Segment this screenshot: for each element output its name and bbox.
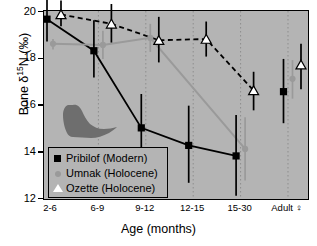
data-point-square (185, 142, 192, 149)
y-axis-tick (38, 58, 43, 60)
x-axis-tick-label: 6-9 (71, 203, 123, 213)
fur-seal-icon (56, 99, 118, 139)
y-axis-tick (38, 104, 43, 106)
data-point-circle (50, 41, 56, 47)
data-point-square (90, 47, 97, 54)
plot-area: Pribilof (Modern) Umnak (Holocene) Ozett… (43, 10, 309, 200)
x-axis-tick-label: Adult ♀ (261, 203, 313, 213)
x-axis-tick-label: 2-6 (24, 203, 76, 213)
data-point-triangle (106, 19, 116, 28)
data-point-square (138, 124, 145, 131)
data-point-triangle (296, 60, 306, 69)
y-axis-tick-label: 20 (12, 6, 36, 17)
x-axis-tick-label: 9-12 (119, 203, 171, 213)
legend-label-pribilof: Pribilof (Modern) (66, 152, 147, 164)
data-point-circle (100, 42, 106, 48)
x-axis-tick-label: 15-30 (214, 203, 266, 213)
y-axis-tick-label: 14 (12, 146, 36, 157)
data-point-square (43, 16, 50, 23)
chart-figure: Bone δ15N (‰) Age (months) Pribilof (Mod… (0, 0, 317, 246)
x-axis-tick-label: 12-15 (166, 203, 218, 213)
data-point-square (233, 152, 240, 159)
y-axis-title: Bone δ15N (‰) (15, 0, 31, 149)
legend-label-ozette: Ozette (Holocene) (66, 182, 155, 194)
data-point-circle (242, 146, 248, 152)
series-line (61, 15, 254, 91)
y-axis-tick (38, 151, 43, 153)
legend-item-pribilof: Pribilof (Modern) (51, 150, 164, 165)
legend-item-ozette: Ozette (Holocene) (51, 180, 164, 195)
y-axis-tick-label: 12 (12, 193, 36, 204)
legend-marker-filled-circle-icon (51, 165, 66, 180)
fur-seal-silhouette (56, 99, 118, 139)
data-point-circle (147, 35, 153, 41)
legend-marker-open-triangle-icon (51, 180, 66, 195)
y-axis-title-superscript: 15 (15, 66, 25, 75)
y-axis-tick (38, 198, 43, 200)
y-axis-tick-label: 16 (12, 99, 36, 110)
x-axis-title: Age (months) (0, 222, 317, 236)
chart-legend: Pribilof (Modern) Umnak (Holocene) Ozett… (48, 147, 168, 198)
y-axis-tick (38, 11, 43, 13)
legend-label-umnak: Umnak (Holocene) (66, 167, 158, 179)
legend-item-umnak: Umnak (Holocene) (51, 165, 164, 180)
data-point-circle (289, 76, 295, 82)
data-point-square (280, 88, 287, 95)
legend-marker-filled-square-icon (51, 150, 66, 165)
y-axis-tick-label: 18 (12, 52, 36, 63)
